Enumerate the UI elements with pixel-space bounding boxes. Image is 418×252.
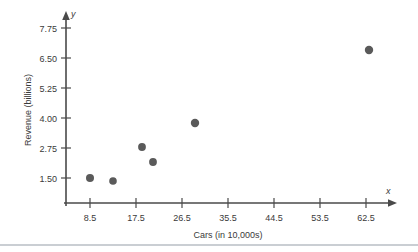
y-tick-label: 7.75 bbox=[39, 24, 57, 34]
x-tick-label: 26.5 bbox=[173, 213, 191, 223]
x-axis-variable-label: x bbox=[385, 186, 391, 196]
data-point bbox=[86, 174, 94, 182]
y-axis-title: Revenue (billions) bbox=[23, 74, 33, 146]
data-point-group bbox=[86, 46, 373, 185]
y-axis-variable-label: y bbox=[70, 9, 76, 19]
y-axis-arrow-icon bbox=[62, 11, 70, 20]
x-axis-arrow-icon bbox=[388, 199, 397, 207]
y-tick-label: 6.50 bbox=[39, 54, 57, 64]
plot-canvas: y x 7.75 6.50 5.25 4.00 2.75 1.50 bbox=[0, 0, 418, 252]
x-tick-label: 53.5 bbox=[311, 213, 329, 223]
y-axis: y bbox=[62, 9, 76, 206]
x-tick-label: 35.5 bbox=[219, 213, 237, 223]
data-point bbox=[138, 143, 146, 151]
x-axis: x bbox=[64, 186, 397, 207]
x-tick-label: 17.5 bbox=[127, 213, 145, 223]
y-tick-label: 5.25 bbox=[39, 84, 57, 94]
y-tick-label: 2.75 bbox=[39, 144, 57, 154]
x-tick-label: 8.5 bbox=[84, 213, 97, 223]
data-point bbox=[149, 158, 157, 166]
y-tick-label: 1.50 bbox=[39, 174, 57, 184]
x-axis-title: Cars (in 10,000s) bbox=[193, 230, 262, 240]
data-point bbox=[365, 46, 373, 54]
data-point bbox=[109, 177, 117, 185]
x-tick-label: 62.5 bbox=[357, 213, 375, 223]
x-tick-label: 44.5 bbox=[265, 213, 283, 223]
x-tick-labels: 8.5 17.5 26.5 35.5 44.5 53.5 62.5 bbox=[84, 213, 375, 223]
scatter-plot-figure: y x 7.75 6.50 5.25 4.00 2.75 1.50 bbox=[0, 0, 418, 252]
data-point bbox=[191, 119, 199, 127]
y-tick-label: 4.00 bbox=[39, 114, 57, 124]
y-tick-labels: 7.75 6.50 5.25 4.00 2.75 1.50 bbox=[39, 24, 57, 184]
